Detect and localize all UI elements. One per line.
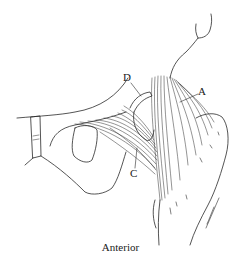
label-c: C (130, 168, 137, 179)
figure-caption: Anterior (0, 241, 241, 253)
obturator-foramen (72, 126, 97, 163)
pubofemoral-ligament (75, 106, 157, 174)
label-d: D (123, 72, 131, 83)
hip-ligament-illustration: D A C Anterior (0, 0, 241, 269)
artist-signature (206, 198, 219, 228)
acetabular-rim (130, 92, 152, 112)
label-a-leader (180, 94, 198, 102)
greater-trochanter (190, 114, 228, 245)
femoral-shaft (158, 200, 160, 245)
pubic-symphysis (31, 116, 41, 158)
iliac-spine (170, 14, 212, 78)
anatomical-drawing (0, 0, 241, 269)
iliac-contour (17, 78, 128, 118)
label-a: A (198, 86, 206, 97)
label-d-leader (131, 83, 141, 96)
